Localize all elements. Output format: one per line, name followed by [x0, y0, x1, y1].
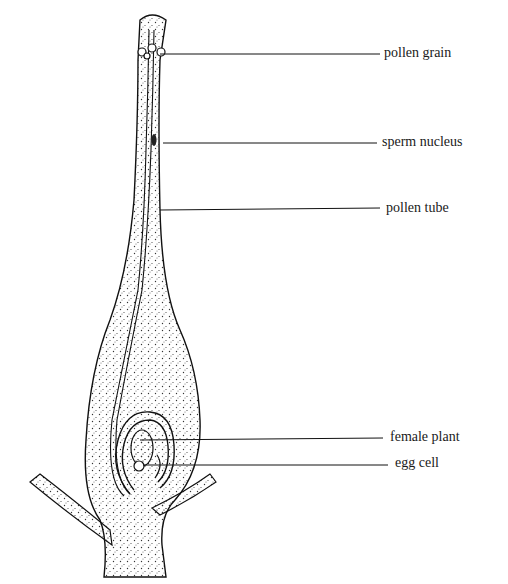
label-female-plant: female plant	[390, 429, 460, 445]
sperm-nucleus-drawing	[152, 134, 157, 146]
pistil-diagram	[0, 0, 508, 584]
label-pollen-grain: pollen grain	[384, 45, 451, 61]
label-sperm-nucleus: sperm nucleus	[382, 134, 462, 150]
label-pollen-tube: pollen tube	[386, 200, 449, 216]
female-plant-drawing	[131, 430, 153, 466]
label-egg-cell: egg cell	[395, 455, 439, 471]
